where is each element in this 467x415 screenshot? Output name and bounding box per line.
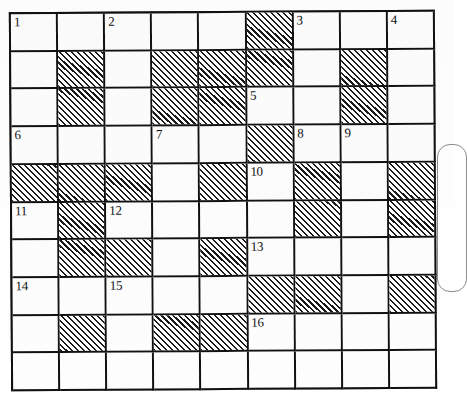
- crossword-cell[interactable]: 2: [105, 13, 152, 51]
- crossword-cell[interactable]: [201, 352, 248, 390]
- crossword-cell[interactable]: [342, 276, 389, 314]
- crossword-cell[interactable]: [106, 89, 153, 127]
- clue-number: 15: [110, 278, 122, 293]
- crossword-cell[interactable]: [342, 163, 389, 201]
- clue-number: 14: [15, 278, 27, 293]
- crossword-cell[interactable]: 12: [106, 202, 153, 240]
- crossword-cell[interactable]: [200, 126, 247, 164]
- crossword-cell[interactable]: [388, 49, 435, 87]
- crossword-cell-blocked: [200, 164, 247, 202]
- crossword-cell-blocked: [248, 276, 295, 314]
- crossword-cell[interactable]: [296, 352, 343, 390]
- crossword-grid[interactable]: 12345678910111213141516: [9, 10, 437, 392]
- crossword-cell[interactable]: [248, 201, 295, 239]
- crossword-cell[interactable]: [153, 202, 200, 240]
- clue-number: 7: [156, 126, 162, 141]
- clue-number: 11: [15, 203, 27, 218]
- crossword-cell-blocked: [154, 315, 201, 353]
- clue-number: 4: [391, 12, 397, 27]
- crossword-cell-blocked: [59, 165, 106, 203]
- clue-number: 12: [109, 202, 121, 217]
- crossword-cell[interactable]: [342, 238, 389, 276]
- crossword-cell[interactable]: [295, 314, 342, 352]
- crossword-cell[interactable]: [12, 240, 59, 278]
- crossword-cell[interactable]: [154, 239, 201, 277]
- clue-number: 3: [297, 13, 303, 28]
- crossword-cell-blocked: [246, 13, 293, 51]
- crossword-cell[interactable]: [343, 351, 390, 389]
- crossword-cell[interactable]: [60, 278, 107, 316]
- crossword-cell[interactable]: 16: [248, 314, 295, 352]
- crossword-cell[interactable]: [105, 51, 152, 89]
- crossword-cell[interactable]: [341, 12, 388, 50]
- crossword-cell[interactable]: 1: [11, 14, 58, 52]
- crossword-cell-blocked: [200, 51, 247, 89]
- crossword-cell-blocked: [58, 51, 105, 89]
- crossword-cell[interactable]: [199, 13, 246, 51]
- crossword-cell[interactable]: 15: [107, 277, 154, 315]
- crossword-cell[interactable]: 7: [153, 126, 200, 164]
- crossword-cell[interactable]: [106, 127, 153, 165]
- crossword-cell[interactable]: [389, 238, 436, 276]
- crossword-cell[interactable]: [107, 315, 154, 353]
- crossword-cell[interactable]: 6: [12, 127, 59, 165]
- crossword-cell[interactable]: [388, 125, 435, 163]
- clue-number: 10: [250, 164, 262, 179]
- crossword-cell[interactable]: [154, 277, 201, 315]
- crossword-cell[interactable]: [201, 277, 248, 315]
- clue-number: 5: [250, 88, 256, 103]
- crossword-cell[interactable]: [152, 13, 199, 51]
- crossword-cell-blocked: [12, 165, 59, 203]
- crossword-cell[interactable]: [388, 87, 435, 125]
- crossword-cell[interactable]: [153, 164, 200, 202]
- crossword-cell-blocked: [389, 162, 436, 200]
- crossword-cell[interactable]: [13, 316, 60, 354]
- clue-number: 13: [251, 239, 263, 254]
- clue-number: 8: [297, 126, 303, 141]
- crossword-cell[interactable]: 11: [12, 203, 59, 241]
- crossword-cell[interactable]: [58, 14, 105, 52]
- clue-number: 16: [251, 314, 263, 329]
- crossword-cell[interactable]: [342, 314, 389, 352]
- crossword-cell[interactable]: [154, 352, 201, 390]
- crossword-cell[interactable]: [295, 238, 342, 276]
- crossword-cell-blocked: [294, 163, 341, 201]
- crossword-cell[interactable]: [390, 313, 437, 351]
- crossword-cell-blocked: [295, 201, 342, 239]
- crossword-cell[interactable]: [342, 200, 389, 238]
- crossword-cell[interactable]: [294, 50, 341, 88]
- crossword-cell[interactable]: [60, 353, 107, 391]
- crossword-cell-blocked: [59, 240, 106, 278]
- clue-number: 9: [344, 125, 350, 140]
- crossword-cell[interactable]: [13, 353, 60, 391]
- crossword-cell[interactable]: 13: [248, 239, 295, 277]
- crossword-cell[interactable]: [248, 352, 295, 390]
- crossword-cell[interactable]: [59, 127, 106, 165]
- crossword-cell-blocked: [200, 88, 247, 126]
- crossword-cell[interactable]: [200, 201, 247, 239]
- crossword-cell[interactable]: 5: [247, 88, 294, 126]
- crossword-cell[interactable]: 3: [294, 12, 341, 50]
- crossword-cell-blocked: [153, 89, 200, 127]
- clue-number: 6: [15, 127, 21, 142]
- crossword-cell-blocked: [106, 164, 153, 202]
- crossword-cell[interactable]: 8: [294, 125, 341, 163]
- crossword-cell[interactable]: [11, 52, 58, 90]
- crossword-cell[interactable]: [107, 353, 154, 391]
- crossword-cell-blocked: [58, 89, 105, 127]
- clue-number: 1: [14, 14, 20, 29]
- crossword-cell-blocked: [389, 200, 436, 238]
- crossword-cell[interactable]: 10: [247, 163, 294, 201]
- crossword-cell[interactable]: [11, 89, 58, 127]
- crossword-cell[interactable]: [390, 351, 437, 389]
- crossword-cell-blocked: [201, 314, 248, 352]
- crossword-cell-blocked: [247, 126, 294, 164]
- crossword-cell[interactable]: 9: [341, 125, 388, 163]
- crossword-cell-blocked: [106, 240, 153, 278]
- crossword-cell-blocked: [389, 276, 436, 314]
- crossword-cell[interactable]: 4: [388, 12, 435, 50]
- crossword-cell[interactable]: [294, 88, 341, 126]
- crossword-cell-blocked: [295, 276, 342, 314]
- crossword-cell[interactable]: 14: [12, 278, 59, 316]
